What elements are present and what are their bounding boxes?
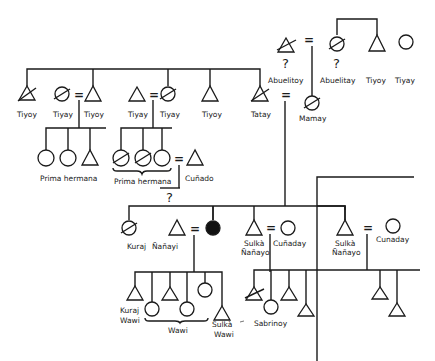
unknown-mark: ? (333, 56, 340, 71)
label-sulka: Sulkà (335, 239, 355, 248)
unknown-mark: ? (282, 56, 289, 71)
children-group: Kuraj Wawi Wawi Sulkà Wawi Sabrinoy (120, 270, 420, 339)
label-abuelitay: Abuelitay (320, 76, 356, 85)
nephew-symbol (372, 287, 388, 299)
kuraj-wawi-symbol (127, 286, 143, 300)
sibling-line (121, 128, 172, 150)
label-tiyoy: Tiyoy (16, 110, 37, 119)
marriage-sign: = (174, 152, 184, 166)
label-cunado: Cuñado (185, 174, 214, 183)
label-nanayi: Ñañayi (152, 242, 178, 251)
sulka-nanayo-symbol (246, 220, 262, 235)
label-tiyoy: Tiyoy (83, 110, 104, 119)
sulka-wawi-symbol (214, 306, 230, 320)
ego-symbol (206, 221, 220, 235)
sabrinoy-symbol (264, 300, 278, 314)
sibling-line (254, 270, 317, 287)
label-tiyay: Tiyay (52, 110, 73, 119)
label-prima-hermana: Prima hermana (114, 177, 171, 186)
label-tiyay: Tiyay (127, 110, 148, 119)
marriage-sign: = (363, 221, 373, 235)
label-tiyoy: Tiyoy (365, 76, 386, 85)
label-tiyoy: Tiyoy (201, 110, 222, 119)
label-mamay: Mamay (299, 114, 327, 123)
label-kuraj: Kuraj (120, 306, 139, 315)
label-kuraj: Kuraj (127, 242, 146, 251)
nephew-symbol (281, 287, 297, 300)
marriage-sign: = (74, 88, 84, 102)
group-brace (113, 168, 171, 174)
sibling-line (46, 128, 106, 150)
marriage-sign: = (266, 221, 276, 235)
marriage-sign: = (304, 33, 314, 47)
label-nanayo: Ñañayo (332, 248, 361, 257)
label-tiyay: Tiyay (159, 110, 180, 119)
tiyoy-symbol (369, 35, 385, 51)
label-prima-hermana: Prima hermana (40, 174, 97, 183)
wawi-symbol (145, 302, 159, 316)
wawi-symbol (198, 283, 212, 297)
label-cunaday: Cunaday (376, 235, 410, 244)
label-sulka: Sulkà (244, 239, 264, 248)
sister-husband-symbol (169, 220, 185, 235)
sibling-line (27, 69, 260, 86)
label-wawi: Wawi (214, 330, 234, 339)
label-sabrinoy: Sabrinoy (254, 319, 288, 328)
prima-symbol (38, 150, 54, 166)
grandparents-group: ? Abuelitoy = ? Abuelitay Tiyoy Tiyay (268, 19, 415, 96)
cunaday-symbol (281, 221, 295, 235)
prima-symbol (154, 150, 170, 166)
wawi-symbol (180, 302, 194, 316)
pointer-mark (240, 321, 244, 322)
label-wawi: Wawi (168, 326, 188, 335)
label-sulka: Sulkà (212, 320, 232, 329)
group-brace (145, 318, 208, 323)
prima-symbol (60, 150, 76, 166)
nephew-symbol (298, 304, 314, 316)
unknown-mark: ? (166, 190, 173, 205)
sulka-nanayo-symbol (337, 220, 353, 235)
half-sibling-line (317, 177, 414, 361)
primo-symbol (82, 150, 98, 165)
label-nanayo: Ñañayo (241, 248, 270, 257)
sibling-line (129, 206, 345, 220)
tiyoy-symbol (85, 86, 101, 101)
tiyay-symbol (399, 35, 413, 49)
label-wawi: Wawi (120, 316, 140, 325)
label-abuelitoy: Abuelitoy (268, 76, 304, 85)
cunado-symbol (187, 150, 203, 165)
label-tiyay: Tiyay (394, 76, 415, 85)
label-tatay: Tatay (250, 110, 271, 119)
cunaday-symbol (386, 219, 400, 233)
marriage-sign: = (190, 222, 200, 236)
tiyoy-symbol (202, 86, 218, 101)
nephew-symbol (389, 303, 405, 316)
tiyay-triangle-symbol (129, 87, 145, 101)
marriage-sign: = (149, 88, 159, 102)
sibling-line (337, 19, 377, 35)
wawi-symbol (162, 287, 178, 300)
label-cunaday: Cuñaday (273, 239, 307, 248)
marriage-sign: = (281, 88, 291, 102)
kinship-diagram: ? Abuelitoy = ? Abuelitay Tiyoy Tiyay Ti… (0, 0, 435, 361)
parents-generation-group: Tiyoy Tiyay = Tiyoy Tiyay = Tiyay Tiyoy … (16, 69, 327, 206)
